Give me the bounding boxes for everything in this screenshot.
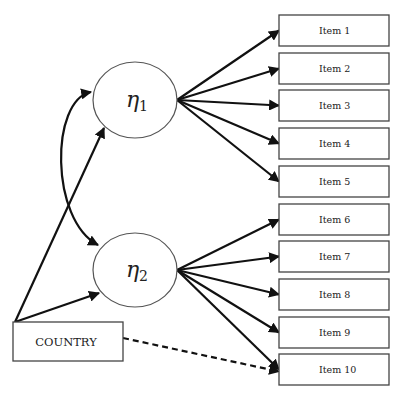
country-to-eta2-arrow xyxy=(15,293,99,322)
item-label: Item 9 xyxy=(319,327,350,338)
item-box-1: Item 1 xyxy=(279,15,389,46)
factor-subscript: 2 xyxy=(139,268,148,284)
item-box-6: Item 6 xyxy=(279,204,389,235)
item-box-9: Item 9 xyxy=(279,317,389,348)
item-box-3: Item 3 xyxy=(279,90,389,121)
item-label: Item 10 xyxy=(319,364,356,375)
item-label: Item 3 xyxy=(319,100,350,111)
item-label: Item 8 xyxy=(319,289,350,300)
item-label: Item 6 xyxy=(319,214,350,225)
item-box-7: Item 7 xyxy=(279,241,389,272)
item-box-5: Item 5 xyxy=(279,166,389,197)
loading-arrow-3 xyxy=(177,100,279,106)
loading-arrow-4 xyxy=(177,100,279,144)
item-label: Item 4 xyxy=(319,138,350,149)
factor-symbol: η xyxy=(126,87,139,112)
country-to-item10-dashed-arrow xyxy=(123,338,279,372)
latent-factor-eta2: η2 xyxy=(93,233,177,307)
loading-arrow-8 xyxy=(177,270,279,295)
covariate-country: COUNTRY xyxy=(13,322,123,361)
covariance-curve xyxy=(61,92,98,245)
item-box-10: Item 10 xyxy=(279,354,389,385)
factor-subscript: 1 xyxy=(139,98,148,114)
item-label: Item 7 xyxy=(319,251,350,262)
loading-arrow-1 xyxy=(177,31,279,101)
item-box-4: Item 4 xyxy=(279,128,389,159)
loading-arrow-10 xyxy=(177,270,279,370)
country-to-eta1-arrow xyxy=(15,128,104,322)
factor-symbol: η xyxy=(126,257,139,282)
nodes: η1η2COUNTRYItem 1Item 2Item 3Item 4Item … xyxy=(13,15,389,385)
item-box-2: Item 2 xyxy=(279,53,389,84)
loading-arrow-2 xyxy=(177,69,279,101)
item-label: Item 5 xyxy=(319,176,350,187)
item-label: Item 2 xyxy=(319,63,350,74)
loading-arrow-5 xyxy=(177,100,279,182)
loading-arrow-9 xyxy=(177,270,279,333)
covariate-label: COUNTRY xyxy=(35,335,97,349)
item-label: Item 1 xyxy=(319,25,350,36)
item-box-8: Item 8 xyxy=(279,279,389,310)
latent-factor-eta1: η1 xyxy=(93,62,177,138)
sem-diagram: η1η2COUNTRYItem 1Item 2Item 3Item 4Item … xyxy=(0,0,401,402)
